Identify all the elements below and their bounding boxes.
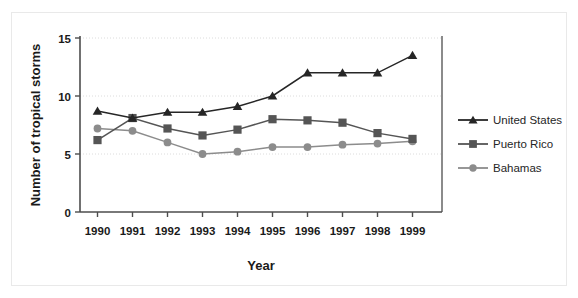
marker-triangle <box>268 91 278 99</box>
marker-circle <box>234 148 242 156</box>
x-tick-label-1992: 1992 <box>155 225 181 237</box>
marker-square <box>338 119 346 127</box>
x-tick-label-1998: 1998 <box>365 225 391 237</box>
marker-circle <box>94 125 102 133</box>
marker-square <box>93 136 101 144</box>
marker-circle <box>269 143 277 151</box>
x-tick-label-1997: 1997 <box>330 225 356 237</box>
marker-triangle <box>408 51 418 59</box>
line-chart-plot: 0510151990199119921993199419951996199719… <box>0 0 578 298</box>
legend-item-bahamas[interactable]: Bahamas <box>458 162 542 174</box>
series-line <box>98 118 413 140</box>
y-tick-label-5: 5 <box>65 149 72 161</box>
marker-triangle <box>93 106 103 114</box>
y-tick-label-15: 15 <box>58 33 71 45</box>
x-axis-title: Year <box>247 258 274 273</box>
marker-circle <box>199 150 207 158</box>
x-tick-label-1994: 1994 <box>225 225 251 237</box>
marker-circle <box>129 127 137 135</box>
y-axis-title: Number of tropical storms <box>28 44 43 207</box>
marker-circle <box>469 164 476 171</box>
y-tick-label-0: 0 <box>65 207 71 219</box>
x-tick-label-1999: 1999 <box>400 225 426 237</box>
marker-square <box>303 116 311 124</box>
x-tick-label-1991: 1991 <box>120 225 146 237</box>
marker-square <box>373 129 381 137</box>
marker-square <box>408 135 416 143</box>
legend-label: United States <box>493 114 562 126</box>
x-tick-label-1990: 1990 <box>85 225 111 237</box>
marker-circle <box>164 139 172 147</box>
marker-square <box>268 115 276 123</box>
x-tick-label-1993: 1993 <box>190 225 216 237</box>
y-tick-label-10: 10 <box>58 91 71 103</box>
series-line <box>98 55 413 118</box>
x-tick-label-1996: 1996 <box>295 225 321 237</box>
marker-square <box>163 124 171 132</box>
marker-circle <box>304 143 312 151</box>
marker-square <box>198 131 206 139</box>
chart-legend: United StatesPuerto RicoBahamas <box>458 114 562 174</box>
marker-square <box>469 140 477 148</box>
legend-item-united-states[interactable]: United States <box>458 114 562 126</box>
legend-label: Puerto Rico <box>493 138 553 150</box>
legend-item-puerto-rico[interactable]: Puerto Rico <box>458 138 553 150</box>
marker-square <box>233 126 241 134</box>
chart-figure: 0510151990199119921993199419951996199719… <box>0 0 578 298</box>
marker-circle <box>374 140 382 148</box>
legend-label: Bahamas <box>493 162 542 174</box>
marker-circle <box>339 141 347 149</box>
series-puerto-rico <box>93 114 416 144</box>
series-line <box>98 128 413 154</box>
x-tick-label-1995: 1995 <box>260 225 286 237</box>
series-united-states <box>93 51 418 122</box>
